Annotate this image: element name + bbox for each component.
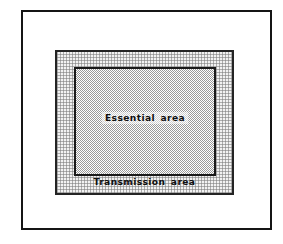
transmission-area-label: Transmission area xyxy=(61,177,229,187)
essential-area-label-text: Essential area xyxy=(102,112,188,124)
essential-area-label: Essential area xyxy=(77,112,213,124)
figure-root: Essential area Transmission area xyxy=(0,0,283,244)
